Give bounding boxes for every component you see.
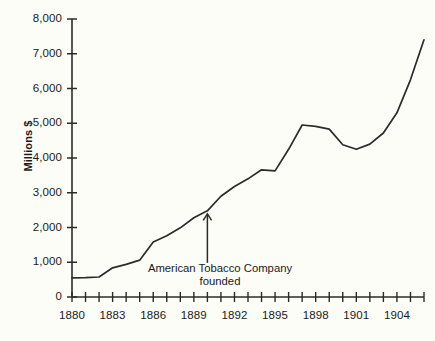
chart-container: Millions $ 01,0002,0003,0004,0005,0006,0… — [0, 0, 435, 341]
annotation-text-line-2: founded — [140, 275, 300, 289]
y-axis-tick-label: 2,000 — [0, 221, 62, 233]
data-series-group — [72, 40, 424, 278]
y-axis-tick-label: 5,000 — [0, 116, 62, 128]
axis-lines — [72, 19, 424, 297]
y-axis-tick-label: 4,000 — [0, 151, 62, 163]
y-axis-tick-label: 8,000 — [0, 12, 62, 24]
y-axis-tick-label: 6,000 — [0, 82, 62, 94]
x-axis-tick-label: 1904 — [372, 309, 422, 321]
y-axis-tick-label: 7,000 — [0, 47, 62, 59]
chart-plot-area — [0, 0, 435, 341]
data-line — [72, 40, 424, 278]
y-axis-tick-label: 3,000 — [0, 186, 62, 198]
annotation-arrow-group — [203, 214, 211, 263]
y-axis-tick-label: 0 — [0, 290, 62, 302]
y-axis-tick-label: 1,000 — [0, 255, 62, 267]
annotation-text-line-1: American Tobacco Company — [140, 262, 300, 276]
